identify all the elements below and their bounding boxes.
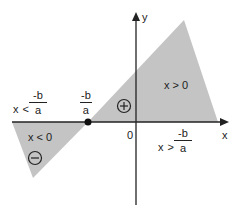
positive-region: [88, 20, 218, 122]
right-interval-label: x > -b a: [158, 128, 192, 154]
left-interval-label: x < -b a: [13, 90, 47, 116]
right-interval-fraction: -b a: [174, 128, 192, 154]
left-interval-denominator: a: [35, 103, 41, 116]
root-numerator: -b: [80, 90, 92, 102]
right-interval-numerator: -b: [177, 128, 189, 140]
positive-region-label: x > 0: [164, 80, 188, 91]
x-axis-arrow-icon: [220, 118, 229, 126]
x-axis-label: x: [222, 130, 228, 141]
root-fraction: -b a: [80, 90, 92, 116]
right-interval-variable: x: [158, 142, 164, 153]
y-axis-arrow-icon: [132, 12, 140, 21]
left-interval-variable: x: [13, 104, 19, 115]
root-denominator: a: [83, 103, 89, 116]
right-interval-denominator: a: [180, 141, 186, 154]
left-interval-numerator: -b: [32, 90, 44, 102]
left-interval-fraction: -b a: [29, 90, 47, 116]
root-point: [85, 119, 92, 126]
origin-label: 0: [127, 130, 133, 141]
y-axis-label: y: [142, 12, 148, 23]
negative-region-label: x < 0: [28, 132, 52, 143]
